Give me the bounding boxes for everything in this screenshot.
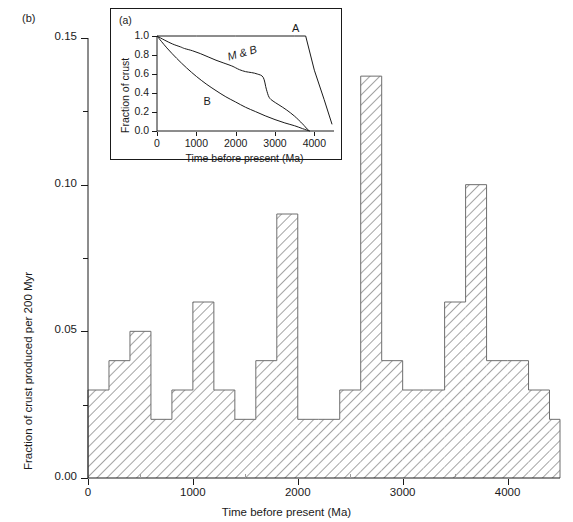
inset-y-tick-label: 0.0 (119, 124, 149, 136)
main-y-tick (81, 478, 88, 479)
inset-y-tick (152, 93, 157, 94)
inset-y-tick (152, 112, 157, 113)
inset-x-tick-label: 0 (135, 137, 179, 149)
histogram-bar (529, 390, 550, 478)
histogram-bar (340, 390, 361, 478)
inset-x-tick-label: 2000 (214, 137, 258, 149)
figure-root: (b) Fraction of crust produced per 200 M… (0, 0, 573, 522)
histogram-bar (382, 361, 403, 478)
main-x-tick (508, 479, 509, 485)
inset-x-tick (157, 132, 158, 136)
histogram-bar (277, 214, 298, 478)
inset-x-axis-title: Time before present (Ma) (116, 152, 373, 164)
inset-y-tick-label: 1.0 (119, 29, 149, 41)
main-x-tick-label: 2000 (268, 486, 328, 498)
inset-x-tick (196, 132, 197, 136)
inset-curve-label: B (203, 95, 210, 107)
histogram-bar (445, 302, 466, 478)
histogram-bar (256, 361, 277, 478)
main-x-tick (88, 479, 89, 485)
main-x-tick (193, 479, 194, 485)
inset-x-tick-label: 4000 (292, 137, 336, 149)
histogram-bar (403, 390, 424, 478)
inset-y-tick (152, 36, 157, 37)
main-x-tick (403, 479, 404, 485)
histogram-bar (130, 331, 151, 478)
histogram-bar (88, 390, 109, 478)
main-y-tick-minor (83, 111, 88, 112)
histogram-bar (109, 361, 130, 478)
main-x-tick-label: 1000 (163, 486, 223, 498)
main-x-tick-label: 4000 (478, 486, 538, 498)
inset-y-tick (152, 55, 157, 56)
main-y-tick (81, 331, 88, 332)
histogram-bar (235, 419, 256, 478)
main-y-tick-minor (83, 258, 88, 259)
histogram-bar (214, 390, 235, 478)
inset-line-chart: (a) Fraction of crust 0.00.20.40.60.81.0… (110, 8, 342, 160)
main-y-tick (81, 185, 88, 186)
main-x-tick-label: 3000 (373, 486, 433, 498)
inset-x-tick-label: 3000 (253, 137, 297, 149)
main-y-tick (81, 38, 88, 39)
main-x-tick-label: 0 (58, 486, 118, 498)
histogram-bar (508, 361, 529, 478)
inset-x-tick (314, 132, 315, 136)
inset-x-tick (275, 132, 276, 136)
main-x-tick-minor (455, 474, 456, 478)
main-x-tick-minor (350, 474, 351, 478)
histogram-bar (298, 419, 319, 478)
main-y-tick-label: 0.10 (31, 177, 77, 189)
histogram-bar (550, 419, 560, 478)
inset-curve-label: A (292, 22, 299, 34)
histogram-bar (172, 390, 193, 478)
main-y-tick-label: 0.15 (31, 30, 77, 42)
histogram-bar (424, 390, 445, 478)
inset-y-tick-label: 0.4 (119, 86, 149, 98)
histogram-bar (466, 185, 487, 478)
inset-y-tick (152, 74, 157, 75)
inset-y-tick-label: 0.6 (119, 67, 149, 79)
histogram-bar (361, 76, 382, 478)
main-y-tick-label: 0.00 (31, 470, 77, 482)
inset-y-tick-label: 0.2 (119, 105, 149, 117)
inset-x-tick-label: 1000 (174, 137, 218, 149)
main-x-tick (298, 479, 299, 485)
main-y-tick-minor (83, 405, 88, 406)
main-y-tick-label: 0.05 (31, 323, 77, 335)
main-x-tick-minor (245, 474, 246, 478)
main-x-tick-minor (140, 474, 141, 478)
histogram-bar (151, 419, 172, 478)
inset-y-tick-label: 0.8 (119, 48, 149, 60)
inset-x-tick (236, 132, 237, 136)
histogram-bar (193, 302, 214, 478)
histogram-bar (487, 361, 508, 478)
histogram-bar (319, 419, 340, 478)
